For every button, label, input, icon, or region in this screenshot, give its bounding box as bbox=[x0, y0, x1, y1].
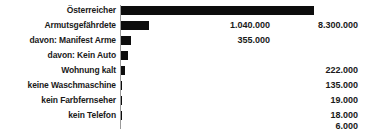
chart-row: davon: Manifest Arme 355.000 bbox=[0, 33, 370, 48]
chart-row: davon: Kein Auto bbox=[0, 48, 370, 63]
category-label: keine Waschmaschine bbox=[0, 78, 116, 93]
bar bbox=[121, 96, 122, 105]
category-label: Armutsgefährdete bbox=[0, 18, 116, 33]
bar bbox=[121, 36, 131, 45]
chart-row: 6.000 bbox=[0, 119, 370, 134]
value-label-right: 8.300.000 bbox=[318, 18, 358, 33]
chart-row: kein Farbfernseher 19.000 bbox=[0, 93, 370, 108]
bar bbox=[121, 66, 125, 75]
category-label: Wohnung kalt bbox=[0, 63, 116, 78]
bar-chart: Österreicher Armutsgefährdete 1.040.000 … bbox=[0, 0, 370, 134]
bar bbox=[121, 81, 122, 90]
value-label-right: 19.000 bbox=[330, 93, 358, 108]
category-label: kein Farbfernseher bbox=[0, 93, 116, 108]
value-label-mid: 1.040.000 bbox=[230, 18, 270, 33]
category-label: davon: Manifest Arme bbox=[0, 33, 116, 48]
category-label: davon: Kein Auto bbox=[0, 48, 116, 63]
bar bbox=[121, 21, 149, 30]
category-label: Österreicher bbox=[0, 3, 116, 18]
chart-row: Österreicher bbox=[0, 3, 370, 18]
value-label-right: 135.000 bbox=[325, 78, 358, 93]
chart-row: Wohnung kalt 222.000 bbox=[0, 63, 370, 78]
category-label bbox=[0, 119, 116, 134]
value-label-right: 222.000 bbox=[325, 63, 358, 78]
bar bbox=[121, 6, 314, 15]
bar bbox=[121, 51, 128, 60]
chart-row: Armutsgefährdete 1.040.000 8.300.000 bbox=[0, 18, 370, 33]
value-label-mid: 355.000 bbox=[237, 33, 270, 48]
chart-row: keine Waschmaschine 135.000 bbox=[0, 78, 370, 93]
value-label-right: 6.000 bbox=[335, 119, 358, 134]
